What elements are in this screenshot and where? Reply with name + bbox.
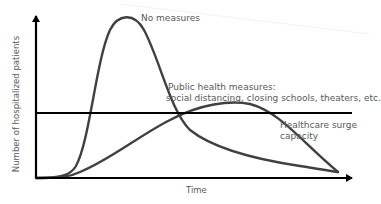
y-axis-label: Number of hospitalized patients <box>12 36 21 172</box>
x-axis-label: Time <box>186 186 207 195</box>
capacity-label-line1: Healthcare surge <box>280 121 357 130</box>
capacity-label-line2: capacity <box>280 132 318 141</box>
no-measures-label: No measures <box>141 14 200 23</box>
public-health-label-line2: social distancing, closing schools, thea… <box>166 94 381 103</box>
public-health-label-line1: Public health measures: <box>168 83 276 92</box>
